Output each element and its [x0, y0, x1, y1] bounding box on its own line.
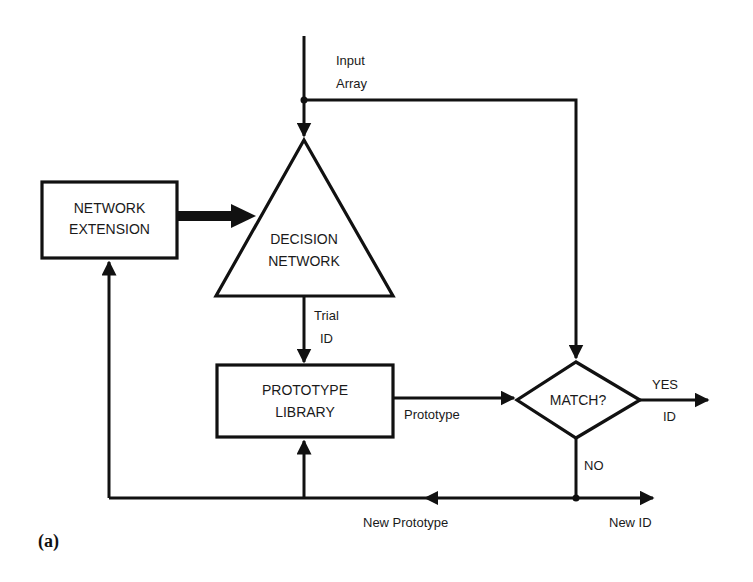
match-label: MATCH?	[550, 392, 607, 408]
trial-label: Trial	[314, 308, 339, 323]
network-extension-line1: NETWORK	[74, 200, 146, 216]
new-id-edge: New ID	[576, 498, 653, 530]
left-arrowhead-icon	[424, 491, 438, 505]
prototype-library-line1: PROTOTYPE	[262, 382, 348, 398]
figure-caption: (a)	[38, 531, 59, 552]
prototype-edge: Prototype	[393, 398, 514, 422]
decision-network-line2: NETWORK	[268, 253, 340, 269]
prototype-library-line2: LIBRARY	[275, 404, 335, 420]
no-edge: NO	[573, 438, 604, 502]
trial-id-label: ID	[320, 331, 333, 346]
yes-label: YES	[652, 377, 678, 392]
trial-id-edge: Trial ID	[304, 296, 339, 362]
network-extension-node: NETWORK EXTENSION	[42, 182, 177, 258]
prototype-label: Prototype	[404, 407, 460, 422]
input-label: Input	[336, 53, 365, 68]
yes-id-label: ID	[663, 409, 676, 424]
array-label: Array	[336, 76, 368, 91]
match-node: MATCH?	[517, 362, 640, 438]
thick-arrowhead-icon	[231, 204, 256, 228]
yes-edge: YES ID	[640, 377, 708, 424]
decision-network-line1: DECISION	[270, 231, 338, 247]
input-array-edge: Input Array	[301, 36, 577, 358]
prototype-library-node: PROTOTYPE LIBRARY	[217, 365, 393, 437]
network-extension-line2: EXTENSION	[69, 221, 150, 237]
extension-to-decision-edge	[177, 204, 256, 228]
no-label: NO	[584, 458, 604, 473]
prototype-recognition-flowchart: Input Array NETWORK EXTENSION DECISION N…	[0, 0, 753, 582]
new-id-label: New ID	[609, 515, 652, 530]
new-prototype-label: New Prototype	[363, 515, 448, 530]
